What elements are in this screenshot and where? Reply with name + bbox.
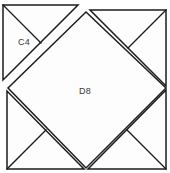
figure-canvas: C4 D8 [0, 0, 170, 173]
label-d8: D8 [79, 86, 91, 96]
tangram-figure: C4 D8 [0, 0, 170, 173]
label-c4: C4 [18, 37, 30, 47]
